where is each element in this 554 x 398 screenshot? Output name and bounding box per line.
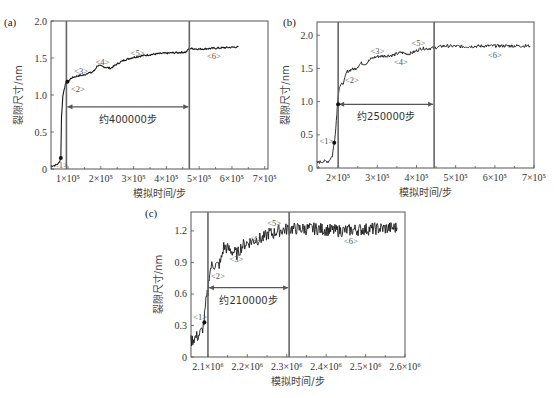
stage-label: <2> bbox=[71, 84, 85, 94]
y-tick-label: 0.5 bbox=[35, 127, 48, 138]
stage-label: <4> bbox=[248, 234, 262, 244]
x-tick-label: 3×10⁵ bbox=[365, 172, 389, 183]
stage-label: <3> bbox=[74, 66, 88, 76]
stage-label: <5> bbox=[131, 48, 145, 58]
stage-label: <4> bbox=[394, 57, 408, 67]
panel-label: (b) bbox=[283, 16, 296, 29]
x-axis-label: 模拟时间/步 bbox=[399, 186, 452, 198]
stage-label: <3> bbox=[229, 254, 243, 264]
y-tick-label: 1.0 bbox=[301, 96, 314, 107]
arrow-head-left-icon bbox=[67, 104, 72, 109]
x-tick-label: 2.4×10⁶ bbox=[310, 361, 342, 372]
x-tick-label: 6×10⁵ bbox=[220, 173, 244, 184]
x-tick-label: 2.5×10⁶ bbox=[350, 361, 382, 372]
y-tick-label: 0.5 bbox=[301, 129, 314, 140]
y-axis-label: 裂隙尺寸/nm bbox=[279, 65, 291, 124]
x-tick-label: 5×10⁵ bbox=[444, 172, 468, 183]
x-axis-label: 模拟时间/步 bbox=[133, 187, 186, 199]
stage-label: <1> bbox=[319, 136, 333, 146]
x-tick-label: 2.1×10⁶ bbox=[192, 361, 224, 372]
y-tick-label: 1.5 bbox=[35, 53, 48, 64]
plot-frame bbox=[317, 22, 534, 168]
stage-label: <6> bbox=[207, 51, 221, 61]
x-tick-label: 7×10⁵ bbox=[253, 173, 277, 184]
duration-annotation: 约400000步 bbox=[99, 113, 157, 125]
x-tick-label: 2.2×10⁶ bbox=[232, 361, 264, 372]
stage-label: <5> bbox=[267, 218, 281, 228]
figure-canvas: (a)00.51.01.52.01×10⁵2×10⁵3×10⁵4×10⁵5×10… bbox=[0, 0, 554, 398]
x-tick-label: 5×10⁵ bbox=[187, 173, 211, 184]
x-tick-label: 7×10⁵ bbox=[522, 172, 546, 183]
stage-label: <1> bbox=[54, 160, 68, 170]
stage-label: <2> bbox=[345, 75, 359, 85]
x-tick-label: 2×10⁵ bbox=[326, 172, 350, 183]
arrow-head-right-icon bbox=[283, 285, 288, 290]
y-tick-label: 0 bbox=[42, 164, 47, 175]
y-tick-label: 2.0 bbox=[301, 30, 314, 41]
x-tick-label: 6×10⁵ bbox=[483, 172, 507, 183]
arrow-head-left-icon bbox=[209, 285, 214, 290]
x-tick-label: 4×10⁵ bbox=[154, 173, 178, 184]
chart-panel-1: (a)00.51.01.52.01×10⁵2×10⁵3×10⁵4×10⁵5×10… bbox=[4, 16, 277, 200]
stage-label: <1> bbox=[193, 312, 207, 322]
y-tick-label: 1.5 bbox=[301, 63, 314, 74]
data-curve bbox=[191, 223, 397, 346]
stage-label: <2> bbox=[211, 271, 225, 281]
stage-label: <6> bbox=[488, 50, 502, 60]
x-tick-label: 2×10⁵ bbox=[89, 173, 113, 184]
x-tick-label: 3×10⁵ bbox=[122, 173, 146, 184]
plot-frame bbox=[51, 21, 268, 169]
y-tick-label: 1.0 bbox=[35, 90, 48, 101]
y-tick-label: 2.0 bbox=[35, 16, 48, 27]
arrow-head-right-icon bbox=[428, 102, 433, 107]
x-axis-label: 模拟时间/步 bbox=[271, 375, 324, 387]
panel-label: (c) bbox=[145, 207, 158, 220]
y-tick-label: 0.6 bbox=[175, 288, 188, 299]
x-tick-label: 2.3×10⁶ bbox=[271, 361, 303, 372]
point-marker bbox=[336, 102, 340, 106]
chart-panel-3: (c)00.30.60.91.22.1×10⁶2.2×10⁶2.3×10⁶2.4… bbox=[145, 207, 421, 387]
x-tick-label: 2.6×10⁶ bbox=[389, 361, 421, 372]
y-tick-label: 0.3 bbox=[175, 320, 188, 331]
y-tick-label: 0 bbox=[308, 163, 313, 174]
y-tick-label: 1.2 bbox=[175, 225, 188, 236]
y-axis-label: 裂隙尺寸/nm bbox=[12, 65, 24, 124]
panel-label: (a) bbox=[4, 16, 17, 29]
y-tick-label: 0 bbox=[182, 352, 187, 363]
x-tick-label: 4×10⁵ bbox=[404, 172, 428, 183]
stage-label: <3> bbox=[370, 46, 384, 56]
chart-panel-2: (b)00.51.01.52.02×10⁵3×10⁵4×10⁵5×10⁵6×10… bbox=[279, 16, 546, 198]
point-marker bbox=[65, 80, 69, 84]
stage-label: <4> bbox=[96, 57, 110, 67]
stage-label: <6> bbox=[344, 236, 358, 246]
y-axis-label: 裂隙尺寸/nm bbox=[152, 255, 164, 314]
x-tick-label: 1×10⁵ bbox=[56, 173, 80, 184]
duration-annotation: 约250000步 bbox=[357, 110, 415, 122]
stage-label: <5> bbox=[412, 38, 426, 48]
y-tick-label: 0.9 bbox=[175, 257, 188, 268]
duration-annotation: 约210000步 bbox=[219, 294, 277, 306]
arrow-head-right-icon bbox=[183, 104, 188, 109]
